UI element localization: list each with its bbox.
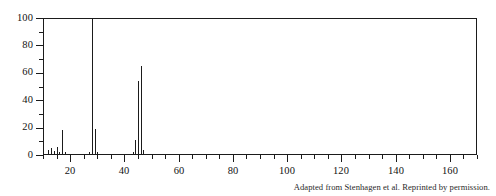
x-axis-tick-major bbox=[396, 155, 397, 162]
x-axis-tick-minor bbox=[301, 155, 302, 159]
x-axis-label: 140 bbox=[388, 165, 404, 176]
x-axis-label: 120 bbox=[333, 165, 349, 176]
x-axis-tick-minor bbox=[246, 155, 247, 159]
figure-caption: Adapted from Stenhagen et al. Reprinted … bbox=[294, 182, 490, 192]
x-axis-tick-minor bbox=[192, 155, 193, 159]
x-axis-tick-minor bbox=[260, 155, 261, 159]
x-axis-tick-major bbox=[179, 155, 180, 162]
x-axis-tick-minor bbox=[314, 155, 315, 159]
mass-spectrum-figure: 020406080100 20406080100120140160 Adapte… bbox=[0, 0, 496, 196]
x-axis-tick-minor bbox=[369, 155, 370, 159]
x-axis-tick-major bbox=[287, 155, 288, 162]
x-axis-tick-major bbox=[450, 155, 451, 162]
x-axis-tick-minor bbox=[355, 155, 356, 159]
x-axis-tick-minor bbox=[111, 155, 112, 159]
x-axis-tick-major bbox=[341, 155, 342, 162]
x-axis-tick-minor bbox=[328, 155, 329, 159]
x-axis-label: 40 bbox=[119, 165, 130, 176]
x-axis-tick-minor bbox=[274, 155, 275, 159]
x-axis-tick-major bbox=[70, 155, 71, 162]
x-axis-tick-major bbox=[124, 155, 125, 162]
x-axis-tick-minor bbox=[206, 155, 207, 159]
x-axis-tick-minor bbox=[382, 155, 383, 159]
x-axis-tick-minor bbox=[84, 155, 85, 159]
x-axis-tick-minor bbox=[423, 155, 424, 159]
x-axis-label: 160 bbox=[442, 165, 458, 176]
x-axis-tick-minor bbox=[409, 155, 410, 159]
x-axis-label: 60 bbox=[174, 165, 185, 176]
x-axis-tick-minor bbox=[165, 155, 166, 159]
x-axis-tick-minor bbox=[97, 155, 98, 159]
x-axis-tick-minor bbox=[43, 155, 44, 159]
x-axis-tick-minor bbox=[477, 155, 478, 159]
x-axis-tick-minor bbox=[57, 155, 58, 159]
x-axis-label: 20 bbox=[65, 165, 76, 176]
x-axis: 20406080100120140160 bbox=[0, 0, 496, 196]
x-axis-label: 80 bbox=[228, 165, 239, 176]
x-axis-tick-minor bbox=[138, 155, 139, 159]
x-axis-tick-minor bbox=[152, 155, 153, 159]
x-axis-tick-major bbox=[233, 155, 234, 162]
x-axis-tick-minor bbox=[219, 155, 220, 159]
x-axis-tick-minor bbox=[463, 155, 464, 159]
x-axis-label: 100 bbox=[279, 165, 295, 176]
x-axis-tick-minor bbox=[436, 155, 437, 159]
